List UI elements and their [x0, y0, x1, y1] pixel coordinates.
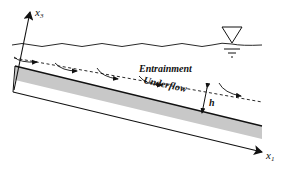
bed-top-line — [15, 66, 262, 126]
flow-arrow-icon — [14, 57, 37, 62]
water-level-symbol-icon — [222, 27, 242, 57]
underflow-diagram: x1 x3 Entrainment Underflow h — [0, 0, 285, 169]
underflow-label: Underflow — [143, 74, 189, 94]
thickness-label: h — [209, 97, 215, 108]
x1-axis-label: x1 — [265, 149, 274, 163]
entrainment-label: Entrainment — [138, 63, 193, 74]
flow-arrow-icon — [55, 63, 77, 71]
x3-axis-label: x3 — [34, 6, 44, 20]
flow-arrow-icon — [219, 83, 241, 96]
free-surface — [12, 43, 262, 46]
flow-arrow-icon — [97, 68, 118, 79]
bed-band — [15, 66, 262, 139]
